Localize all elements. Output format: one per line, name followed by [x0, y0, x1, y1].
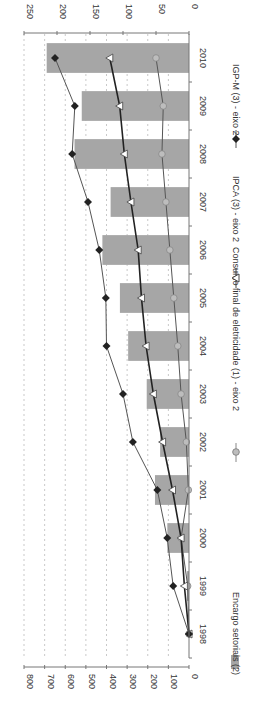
primary-tick-label: 500 [87, 674, 97, 689]
category-label: 2003 [198, 384, 208, 404]
primary-tick-label: 700 [46, 674, 56, 689]
bar-2010 [47, 43, 189, 73]
circle-marker [178, 391, 185, 398]
secondary-tick-label: 0 [190, 4, 200, 9]
primary-tick-label: 200 [149, 674, 159, 689]
category-label: 1999 [198, 576, 208, 596]
secondary-tick-label: 50 [157, 4, 167, 14]
diamond-marker [103, 342, 111, 350]
diamond-marker [119, 390, 127, 398]
rotated-combo-chart: 0100200300400500600700800050100150200250… [0, 0, 267, 709]
primary-tick-label: 0 [190, 674, 200, 679]
bar-series-encargo [47, 43, 189, 601]
chart-container: 0100200300400500600700800050100150200250… [0, 0, 267, 709]
bar-2009 [82, 91, 189, 121]
category-label: 2004 [198, 336, 208, 356]
category-label: 2005 [198, 288, 208, 308]
circle-marker [167, 247, 174, 254]
primary-tick-label: 800 [25, 674, 35, 689]
legend-label: Encargo setoriais (2) [231, 592, 241, 675]
legend-label: IGP-M (3) - eixo 2 [231, 64, 241, 136]
legend-swatch-diamond [232, 135, 240, 143]
circle-marker [160, 103, 167, 110]
category-label: 2001 [198, 480, 208, 500]
diamond-marker [102, 294, 110, 302]
circle-marker [185, 487, 192, 494]
diamond-marker [169, 582, 177, 590]
diamond-marker [95, 246, 103, 254]
legend: Encargo setoriais (2)Consumo final de el… [231, 64, 241, 675]
diamond-marker [84, 198, 92, 206]
category-label: 2002 [198, 432, 208, 452]
legend-swatch-circle [233, 449, 240, 456]
category-label: 2008 [198, 144, 208, 164]
circle-marker [159, 151, 166, 158]
primary-tick-label: 400 [108, 674, 118, 689]
primary-tick-label: 300 [128, 674, 138, 689]
circle-marker [174, 343, 181, 350]
bar-2006 [102, 235, 189, 265]
category-label: 2010 [198, 48, 208, 68]
legend-label: IPCA (3) - eixo 2 [231, 176, 241, 242]
circle-marker [153, 55, 160, 62]
category-label: 1998 [198, 624, 208, 644]
circle-marker [171, 295, 178, 302]
secondary-tick-label: 250 [25, 4, 35, 19]
circle-marker [163, 199, 170, 206]
bar-2007 [111, 187, 189, 217]
diamond-marker [129, 438, 137, 446]
bar-2005 [120, 283, 189, 313]
primary-tick-label: 100 [169, 674, 179, 689]
category-label: 2000 [198, 528, 208, 548]
secondary-tick-label: 200 [58, 4, 68, 19]
diamond-marker [71, 102, 79, 110]
category-label: 2009 [198, 96, 208, 116]
secondary-tick-label: 150 [91, 4, 101, 19]
category-label: 2007 [198, 192, 208, 212]
bar-2008 [75, 139, 189, 169]
secondary-tick-label: 100 [124, 4, 134, 19]
primary-tick-label: 600 [66, 674, 76, 689]
category-label: 2006 [198, 240, 208, 260]
